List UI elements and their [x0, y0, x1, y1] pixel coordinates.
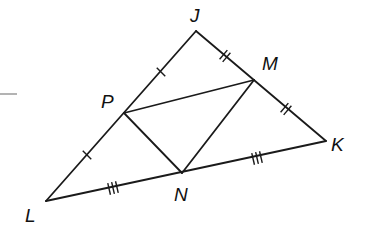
segments [46, 31, 326, 201]
tick-marks [83, 50, 292, 195]
triangle-diagram: J M P K N L [0, 0, 366, 228]
label-J: J [189, 5, 200, 26]
side-JK [196, 31, 326, 141]
label-M: M [262, 53, 278, 74]
midsegment-NP [124, 113, 182, 173]
label-P: P [101, 91, 114, 112]
tick-mark-LN [108, 181, 118, 194]
label-K: K [331, 134, 345, 155]
side-LJ [46, 31, 196, 201]
label-L: L [25, 205, 36, 226]
midsegment-PM [124, 80, 254, 113]
tick-mark-NK [252, 151, 262, 164]
label-N: N [174, 184, 188, 205]
